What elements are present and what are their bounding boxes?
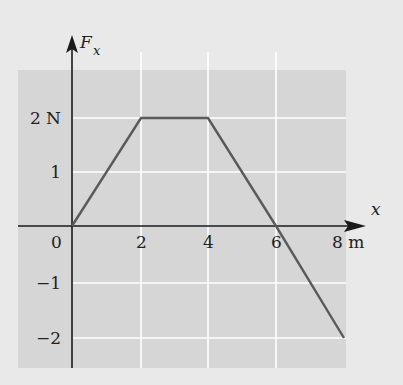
plot-area: [18, 70, 346, 368]
x-tick-6: 6: [271, 232, 282, 252]
x-tick-2: 2: [136, 232, 147, 252]
x-axis-label: x: [371, 199, 381, 219]
y-tick-m2: −2: [36, 328, 61, 348]
chart-figure: F x x 0 2 4 6 8 m 2 N 1 −1 −2: [0, 0, 403, 385]
y-axis-label-sub: x: [93, 43, 101, 58]
force-position-chart: F x x 0 2 4 6 8 m 2 N 1 −1 −2: [0, 0, 403, 385]
x-tick-0: 0: [51, 232, 62, 252]
y-tick-2: 2 N: [30, 108, 61, 128]
y-axis-label: F: [79, 32, 93, 52]
y-tick-m1: −1: [36, 273, 61, 293]
y-tick-1: 1: [50, 162, 61, 182]
x-tick-8: 8 m: [332, 232, 364, 252]
x-tick-4: 4: [203, 232, 214, 252]
